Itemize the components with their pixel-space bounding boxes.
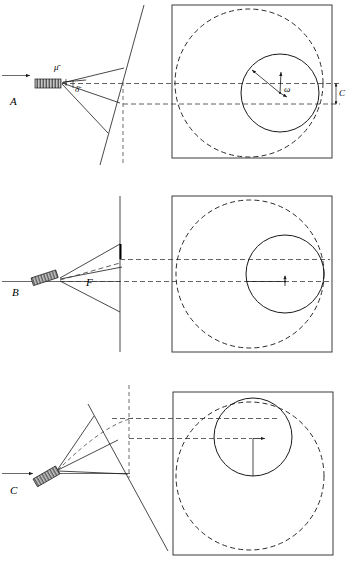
panel-C-source-emitter (33, 466, 60, 487)
panel-A-mirror-line (100, 5, 144, 165)
panel-A-dashed-circle (175, 9, 323, 157)
panel-C-dashed-wavefront (58, 418, 133, 470)
panel-B-dashed-rays (60, 260, 330, 282)
panel-B-dashed-circle (176, 200, 324, 348)
panel-label-B: B (12, 286, 19, 298)
panel-A-ray-fan (62, 68, 124, 133)
panel-B-box (172, 196, 332, 352)
symbol-focal-F: F (86, 276, 93, 288)
panel-C-radius-marker (253, 439, 265, 477)
symbol-omega: ω (284, 84, 290, 94)
panel-B-screen-line (120, 196, 121, 352)
panel-B-source-emitter (31, 270, 58, 286)
panel-B (2, 196, 332, 352)
panel-label-A: A (10, 95, 17, 107)
panel-C (2, 385, 333, 555)
panel-C-mirror-line (88, 404, 168, 551)
panel-A-dashed-rays (62, 84, 340, 105)
panel-B-solid-circle (246, 235, 324, 313)
figure-root: A μ̄ δ̄ ω C B F C (0, 0, 352, 566)
panel-C-ray-fan (58, 416, 128, 474)
panel-A-source-emitter (35, 79, 61, 88)
symbol-delta-bar: δ̄ (75, 84, 79, 94)
caliper-label-C: C (339, 88, 345, 98)
symbol-mu-bar: μ̄ (54, 62, 59, 72)
figure-canvas (0, 0, 352, 566)
panel-B-radius-marker (246, 276, 286, 286)
panel-label-C: C (10, 484, 17, 496)
panel-C-dashed-rays (112, 419, 278, 439)
